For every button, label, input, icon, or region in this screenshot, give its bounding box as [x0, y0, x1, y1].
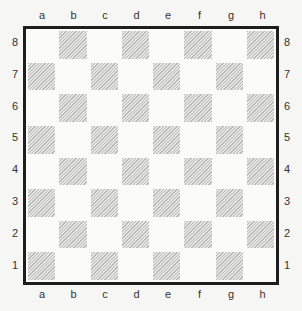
square-d2[interactable]: [120, 219, 151, 251]
rank-label-right: 6: [280, 100, 294, 112]
square-a2[interactable]: [26, 219, 57, 251]
file-label-bottom: g: [215, 288, 247, 300]
square-e4[interactable]: [151, 156, 182, 188]
file-label-top: f: [184, 9, 216, 21]
square-e3[interactable]: [151, 187, 182, 219]
square-g7[interactable]: [214, 61, 245, 93]
square-b4[interactable]: [57, 156, 88, 188]
square-g1[interactable]: [214, 250, 245, 282]
square-c4[interactable]: [89, 156, 120, 188]
square-c3[interactable]: [89, 187, 120, 219]
square-h3[interactable]: [245, 187, 276, 219]
square-a7[interactable]: [26, 61, 57, 93]
rank-label-right: 5: [280, 131, 294, 143]
rank-label-right: 7: [280, 68, 294, 80]
square-g8[interactable]: [214, 29, 245, 61]
square-b2[interactable]: [57, 219, 88, 251]
square-h4[interactable]: [245, 156, 276, 188]
square-f1[interactable]: [182, 250, 213, 282]
square-d3[interactable]: [120, 187, 151, 219]
square-c7[interactable]: [89, 61, 120, 93]
square-c6[interactable]: [89, 92, 120, 124]
square-c1[interactable]: [89, 250, 120, 282]
square-g5[interactable]: [214, 124, 245, 156]
square-f5[interactable]: [182, 124, 213, 156]
file-label-top: c: [89, 9, 121, 21]
file-label-bottom: d: [121, 288, 153, 300]
square-e2[interactable]: [151, 219, 182, 251]
square-f7[interactable]: [182, 61, 213, 93]
rank-label-left: 4: [8, 163, 22, 175]
square-d8[interactable]: [120, 29, 151, 61]
square-b3[interactable]: [57, 187, 88, 219]
square-c5[interactable]: [89, 124, 120, 156]
file-label-bottom: f: [184, 288, 216, 300]
square-g4[interactable]: [214, 156, 245, 188]
square-e1[interactable]: [151, 250, 182, 282]
square-d4[interactable]: [120, 156, 151, 188]
square-c8[interactable]: [89, 29, 120, 61]
file-label-bottom: a: [26, 288, 58, 300]
rank-label-right: 2: [280, 227, 294, 239]
square-e6[interactable]: [151, 92, 182, 124]
square-h6[interactable]: [245, 92, 276, 124]
rank-label-left: 7: [8, 68, 22, 80]
file-label-top: g: [215, 9, 247, 21]
rank-label-right: 1: [280, 259, 294, 271]
square-a8[interactable]: [26, 29, 57, 61]
square-b6[interactable]: [57, 92, 88, 124]
rank-label-left: 5: [8, 131, 22, 143]
square-b1[interactable]: [57, 250, 88, 282]
square-a3[interactable]: [26, 187, 57, 219]
rank-label-left: 3: [8, 195, 22, 207]
file-label-top: a: [26, 9, 58, 21]
file-label-top: d: [121, 9, 153, 21]
square-g2[interactable]: [214, 219, 245, 251]
file-label-top: b: [58, 9, 90, 21]
file-label-top: e: [152, 9, 184, 21]
chessboard: [23, 26, 279, 285]
file-label-top: h: [247, 9, 279, 21]
square-b7[interactable]: [57, 61, 88, 93]
square-e8[interactable]: [151, 29, 182, 61]
square-d6[interactable]: [120, 92, 151, 124]
square-h1[interactable]: [245, 250, 276, 282]
file-label-bottom: c: [89, 288, 121, 300]
square-d1[interactable]: [120, 250, 151, 282]
square-g6[interactable]: [214, 92, 245, 124]
square-h8[interactable]: [245, 29, 276, 61]
rank-label-right: 3: [280, 195, 294, 207]
board-grid: [26, 29, 276, 282]
square-d5[interactable]: [120, 124, 151, 156]
square-f4[interactable]: [182, 156, 213, 188]
file-label-bottom: b: [58, 288, 90, 300]
rank-label-left: 1: [8, 259, 22, 271]
rank-label-right: 4: [280, 163, 294, 175]
square-f6[interactable]: [182, 92, 213, 124]
square-a1[interactable]: [26, 250, 57, 282]
square-d7[interactable]: [120, 61, 151, 93]
rank-label-left: 2: [8, 227, 22, 239]
square-h5[interactable]: [245, 124, 276, 156]
square-e7[interactable]: [151, 61, 182, 93]
square-a4[interactable]: [26, 156, 57, 188]
square-b5[interactable]: [57, 124, 88, 156]
file-label-bottom: h: [247, 288, 279, 300]
square-h2[interactable]: [245, 219, 276, 251]
square-a6[interactable]: [26, 92, 57, 124]
file-label-bottom: e: [152, 288, 184, 300]
square-a5[interactable]: [26, 124, 57, 156]
square-f8[interactable]: [182, 29, 213, 61]
square-f2[interactable]: [182, 219, 213, 251]
square-b8[interactable]: [57, 29, 88, 61]
square-f3[interactable]: [182, 187, 213, 219]
square-e5[interactable]: [151, 124, 182, 156]
square-h7[interactable]: [245, 61, 276, 93]
rank-label-left: 6: [8, 100, 22, 112]
rank-label-left: 8: [8, 36, 22, 48]
square-g3[interactable]: [214, 187, 245, 219]
square-c2[interactable]: [89, 219, 120, 251]
rank-label-right: 8: [280, 36, 294, 48]
